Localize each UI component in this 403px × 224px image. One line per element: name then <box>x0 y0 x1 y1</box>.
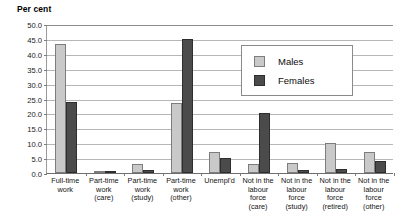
bar-group <box>355 25 394 173</box>
y-axis-tick-label: 50.0 <box>6 21 42 30</box>
bar-males <box>55 44 66 173</box>
bar-males <box>94 171 105 173</box>
bar-males <box>132 164 143 173</box>
bar-males <box>287 163 298 173</box>
x-axis-tick-label-line: (retired) <box>316 203 355 212</box>
bar-males <box>325 143 336 173</box>
x-axis-tick-label-line: (other) <box>162 194 201 203</box>
legend-item-males: Males <box>254 52 352 71</box>
x-axis-tick-mark <box>278 173 279 176</box>
bar-females <box>220 158 231 173</box>
x-axis-tick-label-line: (care) <box>85 194 124 203</box>
bar-females <box>375 161 386 173</box>
x-axis-tick-mark <box>163 173 164 176</box>
y-axis-tick-label: 20.0 <box>6 110 42 119</box>
y-axis-tick-label: 45.0 <box>6 35 42 44</box>
y-axis-tick-label: 15.0 <box>6 125 42 134</box>
y-axis-tick-label: 35.0 <box>6 65 42 74</box>
bar-group <box>201 25 240 173</box>
bar-females <box>143 170 154 173</box>
x-axis-tick-label: Not in thelabourforce(other) <box>354 177 393 211</box>
x-axis-tick-label: Part-timework(other) <box>162 177 201 203</box>
bar-males <box>248 164 259 173</box>
bar-females <box>182 39 193 173</box>
y-axis-title: Per cent <box>17 4 51 14</box>
bar-males <box>171 103 182 173</box>
x-axis-tick-label: Part-timework(care) <box>85 177 124 203</box>
bar-chart: Per cent 50.045.040.035.030.025.020.015.… <box>0 0 403 224</box>
x-axis-tick-label: Full-timework <box>46 177 85 194</box>
x-axis-tick-mark <box>355 173 356 176</box>
bar-group <box>124 25 163 173</box>
x-axis-tick-label: Not in thelabourforce(study) <box>277 177 316 211</box>
legend-item-females: Females <box>254 71 352 90</box>
x-axis-tick-label-line: (other) <box>354 203 393 212</box>
legend: Males Females <box>241 45 353 96</box>
bar-females <box>298 170 309 173</box>
bar-group <box>163 25 202 173</box>
x-axis-tick-mark <box>86 173 87 176</box>
bar-group <box>47 25 86 173</box>
x-axis-labels: Full-timeworkPart-timework(care)Part-tim… <box>46 177 393 223</box>
bar-females <box>259 113 270 173</box>
y-axis-tick-label: 5.0 <box>6 155 42 164</box>
legend-label-females: Females <box>278 75 314 86</box>
bar-females <box>105 171 116 173</box>
bar-females <box>336 169 347 173</box>
y-axis-tick-label: 30.0 <box>6 80 42 89</box>
legend-swatch-females-icon <box>254 75 265 86</box>
x-axis-tick-label: Not in thelabourforce(retired) <box>316 177 355 211</box>
x-axis-tick-label: Part-timework(study) <box>123 177 162 203</box>
x-axis-tick-label-line: (study) <box>123 194 162 203</box>
legend-swatch-males-icon <box>254 56 265 67</box>
x-axis-tick-mark <box>317 173 318 176</box>
x-axis-tick-mark <box>240 173 241 176</box>
x-axis-tick-mark <box>394 173 395 176</box>
x-axis-tick-label: Not in thelabourforce(care) <box>239 177 278 211</box>
x-axis-tick-label-line: work <box>46 186 85 195</box>
x-axis-tick-label: Unempl'd <box>200 177 239 186</box>
bar-females <box>66 102 77 173</box>
x-axis-tick-label-line: (study) <box>277 203 316 212</box>
bar-males <box>364 152 375 173</box>
y-axis-tick-label: 25.0 <box>6 95 42 104</box>
bar-group <box>86 25 125 173</box>
x-axis-tick-label-line: Unempl'd <box>200 177 239 186</box>
y-axis-tick-label: 0.0 <box>6 170 42 179</box>
x-axis-tick-mark <box>124 173 125 176</box>
y-axis-tick-label: 10.0 <box>6 140 42 149</box>
x-axis-tick-mark <box>201 173 202 176</box>
x-axis-tick-label-line: (care) <box>239 203 278 212</box>
y-axis-tick-mark <box>44 174 47 175</box>
legend-label-males: Males <box>278 56 303 67</box>
bar-males <box>209 152 220 173</box>
y-axis-tick-label: 40.0 <box>6 50 42 59</box>
